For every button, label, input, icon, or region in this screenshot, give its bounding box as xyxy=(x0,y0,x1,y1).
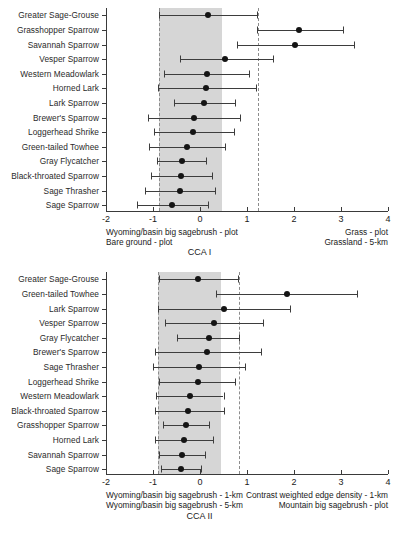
data-point xyxy=(178,466,184,472)
y-tick xyxy=(102,59,106,60)
confidence-interval-cap-low xyxy=(137,202,138,209)
confidence-interval-cap-low xyxy=(155,407,156,414)
x-axis xyxy=(106,474,388,475)
data-point xyxy=(222,56,228,62)
reference-line-upper xyxy=(258,8,259,211)
annotation-right-top: Grass - plot xyxy=(345,227,388,237)
species-label: Horned Lark xyxy=(53,83,99,93)
x-tick-label: 1 xyxy=(244,214,249,224)
x-tick xyxy=(106,207,107,211)
confidence-interval-cap-high xyxy=(249,70,250,77)
x-axis-title: CCA II xyxy=(0,511,399,521)
species-label: Brewer's Sparrow xyxy=(33,113,99,123)
species-label: Greater Sage-Grouse xyxy=(18,274,99,284)
y-tick xyxy=(102,411,106,412)
x-tick-label: -2 xyxy=(102,477,110,487)
confidence-interval-cap-high xyxy=(224,407,225,414)
species-label: Green-tailed Towhee xyxy=(22,142,99,152)
data-point xyxy=(183,422,189,428)
confidence-interval-cap-high xyxy=(235,378,236,385)
data-point xyxy=(221,306,227,312)
x-tick-label: -1 xyxy=(149,214,157,224)
y-tick xyxy=(102,455,106,456)
confidence-interval-cap-low xyxy=(156,393,157,400)
data-point xyxy=(204,71,210,77)
confidence-interval-cap-low xyxy=(154,129,155,136)
confidence-interval-cap-high xyxy=(206,158,207,165)
confidence-interval-cap-high xyxy=(240,114,241,121)
y-tick xyxy=(102,118,106,119)
data-point xyxy=(203,85,209,91)
confidence-interval-cap-high xyxy=(201,466,202,473)
confidence-interval-cap-low xyxy=(155,349,156,356)
shaded-confidence-band xyxy=(158,272,221,474)
data-point xyxy=(201,100,207,106)
confidence-interval-cap-low xyxy=(164,70,165,77)
confidence-interval-cap-low xyxy=(148,114,149,121)
data-point xyxy=(296,27,302,33)
y-tick xyxy=(102,74,106,75)
species-label: Loggerhead Shrike xyxy=(28,377,99,387)
data-point xyxy=(177,188,183,194)
x-axis-title: CCA I xyxy=(0,247,399,257)
species-label: Grasshopper Sparrow xyxy=(17,420,99,430)
confidence-interval-cap-low xyxy=(177,334,178,341)
species-label: Western Meadowlark xyxy=(20,391,99,401)
species-label: Black-throated Sparrow xyxy=(11,406,99,416)
confidence-interval-cap-high xyxy=(290,305,291,312)
confidence-interval-cap-low xyxy=(180,56,181,63)
confidence-interval-cap-low xyxy=(163,422,164,429)
x-tick xyxy=(294,470,295,474)
y-tick xyxy=(102,88,106,89)
data-point xyxy=(181,437,187,443)
x-tick xyxy=(341,207,342,211)
data-point xyxy=(169,202,175,208)
data-point xyxy=(196,364,202,370)
species-label: Sage Sparrow xyxy=(46,464,99,474)
x-tick-label: 0 xyxy=(197,214,202,224)
y-tick xyxy=(102,338,106,339)
confidence-interval-cap-low xyxy=(161,466,162,473)
species-label: Greater Sage-Grouse xyxy=(18,10,99,20)
x-tick xyxy=(106,470,107,474)
y-tick xyxy=(102,352,106,353)
confidence-interval-cap-low xyxy=(157,158,158,165)
species-label: Lark Sparrow xyxy=(49,304,99,314)
data-point xyxy=(184,144,190,150)
data-point xyxy=(178,173,184,179)
x-tick xyxy=(294,207,295,211)
x-tick xyxy=(153,207,154,211)
species-label: Western Meadowlark xyxy=(20,69,99,79)
y-tick xyxy=(102,425,106,426)
y-tick xyxy=(102,323,106,324)
species-label: Grasshopper Sparrow xyxy=(17,25,99,35)
y-tick xyxy=(102,191,106,192)
x-tick-label: -1 xyxy=(149,477,157,487)
confidence-interval-cap-low xyxy=(216,290,217,297)
confidence-interval-cap-high xyxy=(239,334,240,341)
confidence-interval-cap-high xyxy=(213,436,214,443)
y-tick xyxy=(102,147,106,148)
confidence-interval-cap-low xyxy=(237,41,238,48)
y-tick xyxy=(102,440,106,441)
y-axis xyxy=(106,8,107,211)
species-label: Lark Sparrow xyxy=(49,98,99,108)
y-tick xyxy=(102,294,106,295)
species-label: Sage Thrasher xyxy=(44,186,99,196)
data-point xyxy=(190,129,196,135)
confidence-interval-cap-high xyxy=(224,393,225,400)
confidence-interval-cap-low xyxy=(159,451,160,458)
confidence-interval-cap-low xyxy=(149,143,150,150)
data-point xyxy=(187,393,193,399)
y-tick xyxy=(102,132,106,133)
species-label: Gray Flycatcher xyxy=(40,333,99,343)
species-label: Sage Sparrow xyxy=(46,200,99,210)
data-point xyxy=(195,379,201,385)
data-point xyxy=(292,42,298,48)
confidence-interval-cap-low xyxy=(153,363,154,370)
y-tick xyxy=(102,45,106,46)
annotation-left-top: Wyoming/basin big sagebrush - plot xyxy=(106,227,238,237)
confidence-interval-cap-high xyxy=(343,26,344,33)
annotation-right-bottom: Mountain big sagebrush - plot xyxy=(279,500,388,510)
x-tick-label: 3 xyxy=(338,214,343,224)
